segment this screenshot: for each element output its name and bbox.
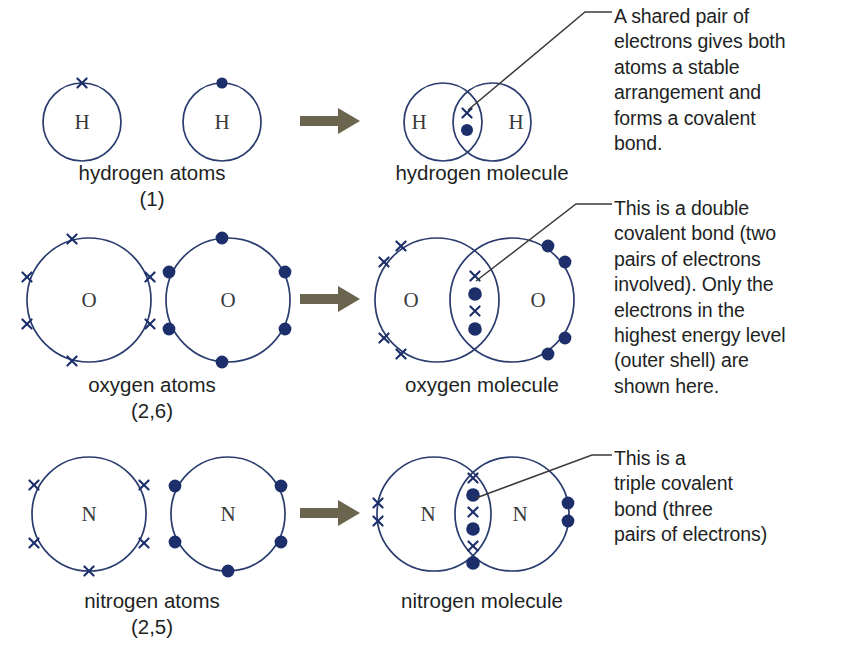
atom-symbol-label-left: N: [420, 502, 435, 526]
shared-electron-cross: [470, 306, 479, 315]
caption-nitrogen-atoms: nitrogen atoms (2,5): [22, 588, 282, 640]
atom-symbol-label-left: H: [411, 110, 426, 134]
atom-symbol-label-right: N: [512, 502, 527, 526]
reaction-arrow-nitrogen: [300, 500, 360, 526]
atom-symbol-label-right: O: [530, 288, 545, 312]
caption-hydrogen-molecule: hydrogen molecule: [352, 160, 612, 186]
shared-electron-dot: [468, 322, 482, 336]
leader-line-nitrogen: [476, 455, 612, 498]
nitrogen-atom-left: N: [29, 457, 148, 576]
atom-symbol-label: H: [214, 110, 229, 134]
shared-electron-dot: [468, 287, 482, 301]
caption-oxygen-molecule: oxygen molecule: [352, 372, 612, 398]
row-nitrogen: N N: [29, 455, 612, 577]
shared-electron-dot: [466, 522, 480, 536]
nitrogen-molecule: N N: [373, 457, 574, 571]
annotation-nitrogen: This is a triple covalent bond (three pa…: [614, 446, 842, 548]
atom-symbol-label: H: [74, 110, 89, 134]
hydrogen-atom-left: H: [43, 78, 121, 161]
reaction-arrow-hydrogen: [300, 108, 360, 134]
caption-nitrogen-molecule: nitrogen molecule: [352, 588, 612, 614]
shared-electron-dot: [466, 556, 480, 570]
atom-symbol-label-right: H: [508, 110, 523, 134]
atom-symbol-label: N: [81, 502, 96, 526]
shared-electron-cross: [468, 473, 477, 482]
shared-electron-cross: [462, 108, 471, 117]
atom-symbol-label: O: [81, 288, 96, 312]
hydrogen-atom-right: H: [183, 77, 261, 161]
shared-electron-dot: [461, 124, 473, 136]
oxygen-atom-left: O: [22, 234, 154, 365]
oxygen-molecule: O O: [375, 238, 574, 362]
electron-shell-left: [375, 238, 499, 362]
electron-shell-right: [450, 238, 574, 362]
shared-electron-cross: [468, 541, 477, 550]
reaction-arrow-oxygen: [300, 286, 360, 312]
oxygen-atom-right: O: [163, 232, 292, 369]
row-hydrogen: H H H H: [43, 12, 612, 161]
atom-symbol-label: N: [220, 502, 235, 526]
shared-electron-cross: [468, 507, 477, 516]
caption-oxygen-atoms: oxygen atoms (2,6): [22, 372, 282, 424]
nitrogen-atom-right: N: [169, 457, 288, 577]
atom-symbol-label-left: O: [403, 288, 418, 312]
covalent-bonding-diagram: .shell { fill: none; stroke: #2a3b6e; st…: [0, 0, 842, 651]
electron-dot: [216, 77, 227, 88]
annotation-hydrogen: A shared pair of electrons gives both at…: [614, 4, 842, 156]
atom-symbol-label: O: [220, 288, 235, 312]
annotation-oxygen: This is a double covalent bond (two pair…: [614, 196, 842, 399]
row-oxygen: O O: [22, 204, 612, 368]
leader-line-hydrogen: [468, 12, 612, 110]
shared-electron-dot: [466, 488, 480, 502]
hydrogen-molecule: H H: [404, 83, 531, 161]
caption-hydrogen-atoms: hydrogen atoms (1): [22, 160, 282, 212]
